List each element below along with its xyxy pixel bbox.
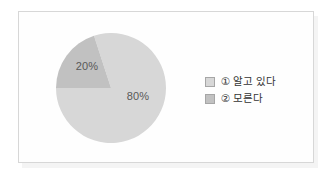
legend-swatch-icon <box>205 77 215 87</box>
pie-slice-label-80: 80% <box>127 90 150 102</box>
chart-legend: ① 알고 있다 ② 모른다 <box>205 73 276 107</box>
legend-item-dont-know: ② 모른다 <box>205 90 276 107</box>
figure: 80% 20% ① 알고 있다 ② 모른다 <box>0 0 331 178</box>
pie-chart: 80% 20% <box>56 33 166 143</box>
legend-label: ① 알고 있다 <box>221 76 276 87</box>
legend-swatch-icon <box>205 94 215 104</box>
chart-frame: 80% 20% ① 알고 있다 ② 모른다 <box>18 11 314 163</box>
legend-label: ② 모른다 <box>221 93 263 104</box>
pie-slice-label-20: 20% <box>76 60 99 72</box>
pie-svg <box>56 33 166 143</box>
legend-item-know: ① 알고 있다 <box>205 73 276 90</box>
